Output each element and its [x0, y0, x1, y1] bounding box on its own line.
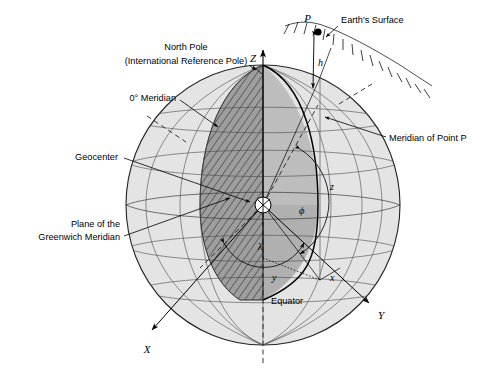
earths-surface-label: Earth's Surface	[341, 15, 404, 25]
point-p-label: P	[303, 12, 311, 24]
greenwich-plane-label-line1: Plane of the	[71, 219, 120, 229]
x-component-label: x	[329, 272, 335, 283]
geocenter-label: Geocenter	[75, 152, 118, 162]
figure-canvas: Z X Y ϕ λ z y x	[0, 0, 486, 373]
y-axis-label: Y	[378, 309, 386, 321]
z-component-label: z	[329, 181, 334, 192]
y-component-label: y	[271, 272, 277, 283]
equator-label: Equator	[271, 296, 303, 306]
earths-surface-label-group: Earth's Surface	[326, 15, 404, 37]
lambda-label: λ	[257, 241, 263, 252]
z-axis-label: Z	[250, 52, 257, 64]
coordinate-system-diagram: Z X Y ϕ λ z y x	[0, 0, 486, 373]
phi-label: ϕ	[299, 205, 305, 216]
meridian-of-point-p-label: Meridian of Point P	[389, 133, 467, 143]
north-pole-label-line1: North Pole	[164, 42, 207, 52]
geocenter-pinwheel-icon	[255, 197, 271, 213]
greenwich-plane-label-line2: Greenwich Meridian	[38, 232, 120, 242]
zero-meridian-label: 0° Meridian	[129, 93, 176, 103]
height-label: h	[318, 57, 323, 68]
north-pole-label-line2: (International Reference Pole)	[125, 56, 248, 66]
x-axis-label: X	[143, 343, 152, 355]
earths-surface-leader	[326, 26, 338, 37]
